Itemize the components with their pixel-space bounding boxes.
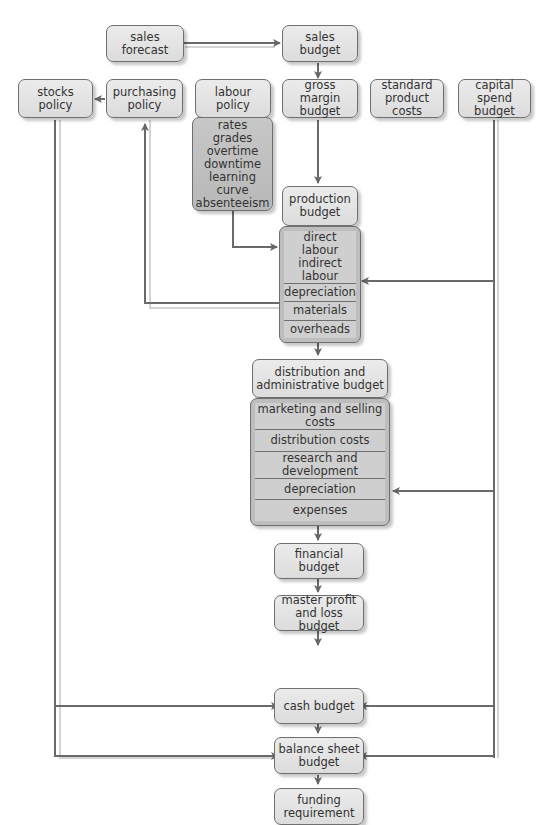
- financial-budget-node: financial budget: [274, 543, 364, 579]
- distribution-item: distribution costs: [255, 430, 385, 452]
- production-items-stack: direct labour indirect labour depreciati…: [279, 226, 361, 343]
- distribution-items-stack: marketing and selling costs distribution…: [250, 398, 390, 526]
- production-item: overheads: [284, 321, 356, 338]
- gross-margin-budget-node: gross margin budget: [282, 79, 358, 118]
- capital-spend-budget-node: capital spend budget: [458, 79, 531, 118]
- standard-product-costs-node: standard product costs: [370, 79, 444, 118]
- production-item: direct labour indirect labour: [284, 231, 356, 284]
- sales-forecast-node: sales forecast: [106, 25, 184, 62]
- distribution-item: marketing and selling costs: [255, 403, 385, 430]
- production-budget-node: production budget: [282, 186, 358, 226]
- purchasing-policy-node: purchasing policy: [106, 79, 183, 118]
- stocks-policy-node: stocks policy: [18, 79, 93, 118]
- master-pl-budget-node: master profit and loss budget: [274, 595, 364, 631]
- labour-factors-node: rates grades overtime downtime learning …: [192, 117, 273, 211]
- sales-budget-node: sales budget: [282, 25, 358, 62]
- distribution-item: research and development: [255, 452, 385, 479]
- production-item: materials: [284, 302, 356, 320]
- distribution-admin-budget-node: distribution and administrative budget: [252, 359, 388, 398]
- distribution-item: expenses: [255, 500, 385, 521]
- funding-requirement-node: funding requirement: [274, 788, 364, 825]
- labour-policy-node: labour policy: [195, 79, 271, 118]
- balance-sheet-budget-node: balance sheet budget: [274, 737, 364, 774]
- distribution-item: depreciation: [255, 479, 385, 501]
- production-item: depreciation: [284, 284, 356, 302]
- cash-budget-node: cash budget: [274, 688, 364, 724]
